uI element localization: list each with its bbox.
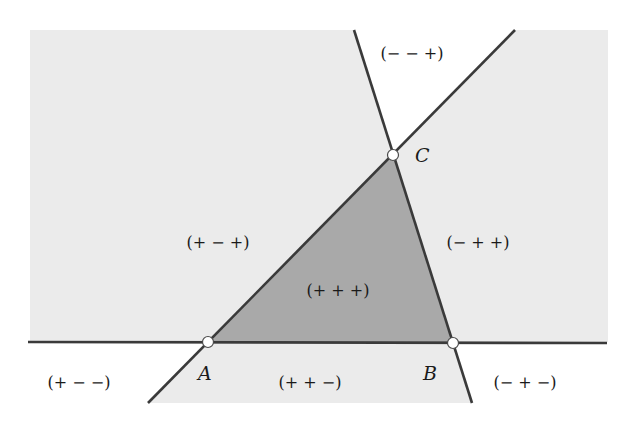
region-label-pmp: (+ − +) [187,233,250,252]
vertex-label-a: A [196,362,212,384]
line-ab [28,342,607,343]
region-label-mpm: (− + −) [494,373,557,392]
region-label-mmp: (− − +) [381,44,444,63]
region-label-ppm: (+ + −) [279,373,342,392]
region-label-ppp: (+ + +) [307,281,370,300]
vertex-label-c: C [415,144,430,166]
vertex-label-b: B [422,362,437,384]
vertex-a-point [203,337,214,348]
region-label-pmm: (+ − −) [48,373,111,392]
vertex-b-point [448,338,459,349]
shaded-regions [30,30,608,403]
vertex-c-point [388,150,399,161]
barycentric-diagram: A B C (+ + +) (+ − +) (− + +) (− − +) (+… [0,0,632,427]
region-label-mpp: (− + +) [447,233,510,252]
